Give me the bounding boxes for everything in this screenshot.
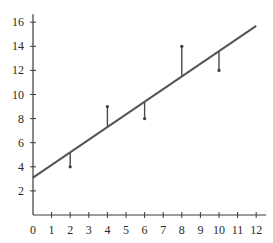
regression-line xyxy=(33,26,256,178)
x-tick-label: 5 xyxy=(123,223,129,237)
x-tick-label: 11 xyxy=(232,223,244,237)
scatter-regression-chart: 0123456789101112 246810121416 xyxy=(0,0,273,243)
x-tick-label: 9 xyxy=(197,223,203,237)
x-tick-label: 10 xyxy=(213,223,225,237)
data-point xyxy=(217,69,220,72)
y-tick-label: 10 xyxy=(12,88,24,102)
data-point xyxy=(69,165,72,168)
x-tick-label: 2 xyxy=(67,223,73,237)
y-tick-label: 16 xyxy=(12,15,24,29)
y-tick-label: 6 xyxy=(18,136,24,150)
x-tick-label: 12 xyxy=(250,223,262,237)
residual-lines xyxy=(69,45,221,169)
x-tick-label: 7 xyxy=(160,223,166,237)
axes xyxy=(33,14,266,215)
x-tick-label: 1 xyxy=(49,223,55,237)
x-tick-label: 4 xyxy=(104,223,110,237)
x-tick-label: 0 xyxy=(30,223,36,237)
x-tick-label: 8 xyxy=(179,223,185,237)
x-tick-label: 3 xyxy=(86,223,92,237)
y-tick-label: 12 xyxy=(12,63,24,77)
y-tick-label: 2 xyxy=(18,184,24,198)
data-point xyxy=(106,105,109,108)
x-axis-ticks: 0123456789101112 xyxy=(30,212,262,237)
data-point xyxy=(180,45,183,48)
y-tick-label: 14 xyxy=(12,39,24,53)
data-point xyxy=(143,117,146,120)
y-tick-label: 8 xyxy=(18,112,24,126)
x-tick-label: 6 xyxy=(142,223,148,237)
y-tick-label: 4 xyxy=(18,160,24,174)
